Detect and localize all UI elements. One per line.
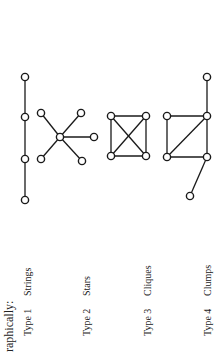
type-4-label: Type 4 <box>202 309 214 336</box>
cliques-node <box>142 152 149 159</box>
stars-node <box>77 109 84 116</box>
clumps-node <box>163 153 170 160</box>
section-heading: raphically: <box>2 301 16 352</box>
type-2-label: Type 2 <box>81 309 93 336</box>
strings-node <box>21 196 28 203</box>
clumps-node <box>186 192 193 199</box>
clumps-node <box>203 112 210 119</box>
stars-node <box>78 157 85 164</box>
stars-edge <box>60 113 81 137</box>
stars-edge <box>60 137 82 161</box>
type-1-name: Strings <box>22 268 34 296</box>
cliques-node <box>107 112 114 119</box>
clumps-node <box>163 112 170 119</box>
strings-node <box>21 113 28 120</box>
clumps-node <box>203 153 210 160</box>
graph-edges <box>25 77 207 200</box>
strings-node <box>21 155 28 162</box>
type-3-label: Type 3 <box>142 309 154 336</box>
network-types-diagram <box>0 0 218 355</box>
clumps-edge <box>167 116 207 157</box>
type-4-name: Clumps <box>202 265 214 296</box>
strings-node <box>21 73 28 80</box>
type-1-label: Type 1 <box>22 309 34 336</box>
stars-node <box>90 133 97 140</box>
type-3-name: Cliques <box>142 265 154 296</box>
graph-nodes <box>21 73 210 203</box>
clumps-node <box>203 73 210 80</box>
stars-node <box>37 109 44 116</box>
stars-node <box>37 155 44 162</box>
cliques-node <box>142 112 149 119</box>
type-2-name: Stars <box>81 276 93 296</box>
stars-node <box>56 133 63 140</box>
clumps-edge <box>190 157 207 196</box>
stars-edge <box>41 113 60 137</box>
cliques-node <box>107 152 114 159</box>
stars-edge <box>41 137 60 159</box>
